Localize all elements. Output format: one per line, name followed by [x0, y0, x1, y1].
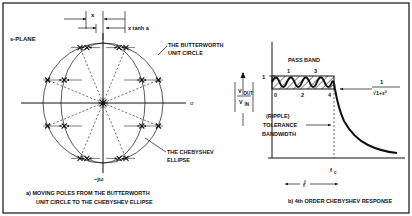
butterworth-label-line2: UNIT CIRCLE [168, 50, 203, 56]
jomega-negative-label: −jω [94, 176, 104, 182]
panel-a: s-PLANE x x tanh a σ −jω [10, 11, 224, 205]
panel-b-caption: b) 4th ORDER CHEBYSHEV RESPONSE [288, 198, 393, 204]
x-tick-0: 0 [274, 92, 277, 98]
ripple-label-line1: (RIPPLE) [266, 113, 290, 119]
panel-a-caption-line2: UNIT CIRCLE TO THE CHEBYSHEV ELLIPSE [36, 199, 153, 205]
x-tick-3: 3 [314, 68, 317, 74]
figure-root: s-PLANE x x tanh a σ −jω [0, 0, 412, 216]
butterworth-label-line1: THE BUTTERWORTH [168, 42, 224, 48]
dimension-x: x [64, 11, 125, 40]
y-axis-numerator: V [238, 88, 242, 94]
chebyshev-callout: THE CHEBYSHEV ELLIPSE [145, 138, 214, 163]
ripple-label-line3: BANDWIDTH [262, 131, 296, 137]
tolerance-value-callout: 1 √1+ε² [340, 79, 400, 96]
ripple-label-line2: TOLERANCE [263, 122, 297, 128]
cutoff-frequency-label: f c [330, 167, 337, 175]
dimension-x-tanh-label: x tanh a [128, 25, 150, 31]
x-tick-4: 4 [328, 92, 332, 98]
y-axis-denominator: V [239, 99, 243, 105]
ripple-tolerance-callout: (RIPPLE) TOLERANCE BANDWIDTH [262, 113, 331, 137]
chebyshev-label-line1: THE CHEBYSHEV [167, 149, 214, 155]
dimension-x-label: x [91, 12, 95, 18]
x-tick-1: 1 [287, 68, 290, 74]
y-axis-magnitude-label: V OUT V IN [235, 72, 253, 126]
panel-b: 1 PASS BAND 0 2 4 1 3 V OUT V IN 1 [235, 42, 405, 204]
bandwidth-indicator: f [285, 180, 338, 188]
pass-band-label: PASS BAND [288, 57, 320, 63]
bandwidth-f-label: f [303, 182, 305, 188]
butterworth-callout: THE BUTTERWORTH UNIT CIRCLE [158, 42, 224, 56]
dimension-x-tanh-a: x tanh a [78, 11, 150, 33]
sigma-axis-label: σ [190, 100, 194, 106]
chebyshev-label-line2: ELLIPSE [167, 157, 190, 163]
x-tick-2: 2 [301, 92, 304, 98]
cutoff-label-main: f [330, 167, 333, 173]
cutoff-label-sub: c [334, 170, 337, 175]
s-plane-label: s-PLANE [10, 36, 36, 42]
tolerance-value-denominator: √1+ε² [373, 90, 387, 96]
figure-border [3, 3, 409, 213]
figure-svg: s-PLANE x x tanh a σ −jω [0, 0, 412, 216]
tolerance-value-numerator: 1 [380, 79, 384, 85]
y-axis-denominator-sub: IN [245, 102, 250, 107]
y-axis-numerator-sub: OUT [244, 91, 254, 96]
y-tick-1-label: 1 [262, 74, 266, 80]
panel-a-caption-line1: a) MOVING POLES FROM THE BUTTERWORTH [26, 190, 150, 196]
